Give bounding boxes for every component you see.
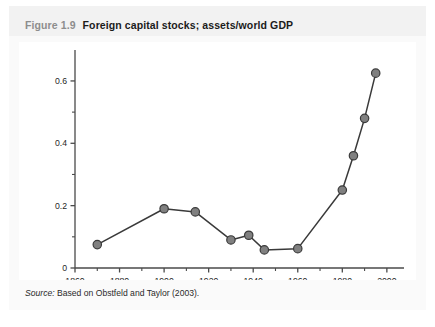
source-text: Based on Obstfeld and Taylor (2003). (55, 288, 200, 298)
x-tick-label: 1920 (199, 276, 218, 281)
data-point-marker[interactable] (160, 205, 168, 213)
data-point-marker[interactable] (349, 152, 357, 160)
figure-number: Figure 1.9 (25, 19, 76, 31)
data-point-marker[interactable] (360, 114, 368, 122)
data-point-marker[interactable] (260, 246, 268, 254)
source-note: Source: Based on Obstfeld and Taylor (20… (25, 288, 199, 298)
y-tick-label: 0.2 (55, 201, 67, 211)
figure-title-text: Foreign capital stocks; assets/world GDP (83, 19, 294, 31)
data-point-marker[interactable] (227, 236, 235, 244)
data-point-marker[interactable] (93, 240, 101, 248)
x-tick-label: 1980 (333, 276, 352, 281)
data-point-marker[interactable] (372, 69, 380, 77)
data-line (97, 73, 375, 250)
x-tick-label: 1940 (244, 276, 263, 281)
data-point-marker[interactable] (294, 244, 302, 252)
data-point-marker[interactable] (245, 231, 253, 239)
data-point-marker[interactable] (191, 208, 199, 216)
y-tick-label: 0.4 (55, 138, 67, 148)
line-chart: 00.20.40.6186018801900192019401960198020… (19, 42, 416, 280)
x-tick-label: 2000 (377, 276, 396, 281)
x-tick-label: 1860 (65, 276, 84, 281)
x-tick-label: 1960 (288, 276, 307, 281)
source-label: Source: (25, 288, 55, 298)
x-tick-label: 1900 (154, 276, 173, 281)
data-point-marker[interactable] (338, 186, 346, 194)
x-tick-label: 1880 (110, 276, 129, 281)
y-tick-label: 0 (62, 263, 67, 273)
chart-plot-area: 00.20.40.6186018801900192019401960198020… (19, 42, 416, 280)
y-tick-label: 0.6 (55, 76, 67, 86)
figure-title: Figure 1.9Foreign capital stocks; assets… (25, 19, 293, 31)
figure-panel: Figure 1.9Foreign capital stocks; assets… (9, 6, 426, 310)
